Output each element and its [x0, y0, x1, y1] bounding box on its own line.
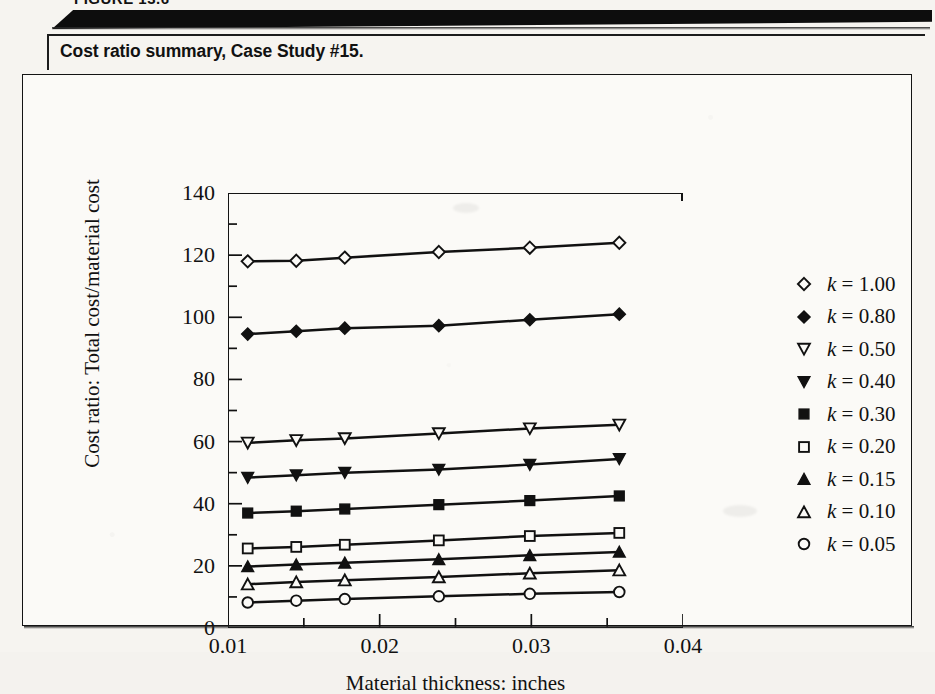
- data-point-marker: [799, 442, 809, 452]
- data-point-marker: [798, 506, 810, 517]
- legend-item[interactable]: k = 0.50: [791, 333, 895, 366]
- data-point-marker: [798, 278, 810, 290]
- legend-item-label: k = 0.40: [827, 369, 895, 394]
- y-axis-tick-label: 60: [193, 429, 215, 455]
- triangle-down-filled-icon: [791, 369, 817, 395]
- figure-number: FIGURE 13.6: [74, 0, 170, 8]
- diamond-filled-icon: [791, 304, 817, 330]
- square-open-icon: [791, 434, 817, 460]
- plot-area: [228, 193, 683, 628]
- x-axis-tick-label: 0.02: [360, 633, 399, 659]
- legend-item-label: k = 0.15: [827, 467, 895, 492]
- data-point-marker: [798, 377, 810, 388]
- caption-top-rule: [47, 34, 925, 36]
- data-point-marker: [799, 409, 809, 419]
- data-point-marker: [798, 344, 810, 355]
- legend-item[interactable]: k = 0.30: [791, 398, 895, 431]
- x-axis-tick-labels: 0.010.020.030.04: [228, 633, 683, 663]
- legend-item-label: k = 1.00: [827, 272, 895, 297]
- plot-frame: [228, 193, 683, 628]
- plot-frame-right-stub: [681, 193, 683, 201]
- y-axis-tick-label: 140: [182, 180, 215, 206]
- figure-box: 020406080100120140 0.010.020.030.04 Cost…: [22, 74, 912, 626]
- scan-smudge: [453, 203, 479, 213]
- y-axis-tick-label: 20: [193, 553, 215, 579]
- legend-item[interactable]: k = 0.40: [791, 366, 895, 399]
- triangle-up-filled-icon: [791, 466, 817, 492]
- x-axis-title: Material thickness: inches: [228, 671, 683, 694]
- figure-box-bottom-shadow: [24, 626, 914, 629]
- data-point-marker: [799, 539, 810, 550]
- y-axis-tick-label: 40: [193, 491, 215, 517]
- data-point-marker: [798, 474, 810, 485]
- legend-item[interactable]: k = 0.80: [791, 301, 895, 334]
- legend-item-label: k = 0.80: [827, 304, 895, 329]
- legend-item-label: k = 0.10: [827, 499, 895, 524]
- y-axis-tick-label: 80: [193, 366, 215, 392]
- y-axis-tick-label: 100: [182, 304, 215, 330]
- legend-item[interactable]: k = 0.20: [791, 431, 895, 464]
- y-axis-title: Cost ratio: Total cost/material cost: [80, 159, 105, 489]
- legend-item-label: k = 0.30: [827, 402, 895, 427]
- header-rule-shadow: [52, 27, 930, 30]
- diamond-open-icon: [791, 271, 817, 297]
- scan-smudge: [723, 505, 757, 517]
- legend-item[interactable]: k = 0.15: [791, 463, 895, 496]
- chart-legend: k = 1.00k = 0.80k = 0.50k = 0.40k = 0.30…: [791, 268, 895, 561]
- legend-item[interactable]: k = 1.00: [791, 268, 895, 301]
- triangle-down-open-icon: [791, 336, 817, 362]
- triangle-up-open-icon: [791, 499, 817, 525]
- y-axis-tick-label: 120: [182, 242, 215, 268]
- square-filled-icon: [791, 401, 817, 427]
- legend-item-label: k = 0.20: [827, 434, 895, 459]
- legend-item[interactable]: k = 0.05: [791, 528, 895, 561]
- data-point-marker: [798, 311, 810, 323]
- caption-left-tick: [47, 34, 49, 70]
- figure-caption: Cost ratio summary, Case Study #15.: [60, 41, 364, 62]
- x-axis-tick-label: 0.04: [664, 633, 703, 659]
- legend-item-label: k = 0.05: [827, 532, 895, 557]
- y-axis-tick-labels: 020406080100120140: [143, 193, 215, 628]
- circle-open-icon: [791, 531, 817, 557]
- x-axis-tick-label: 0.03: [512, 633, 551, 659]
- legend-item-label: k = 0.50: [827, 337, 895, 362]
- x-axis-tick-label: 0.01: [209, 633, 248, 659]
- legend-item[interactable]: k = 0.10: [791, 496, 895, 529]
